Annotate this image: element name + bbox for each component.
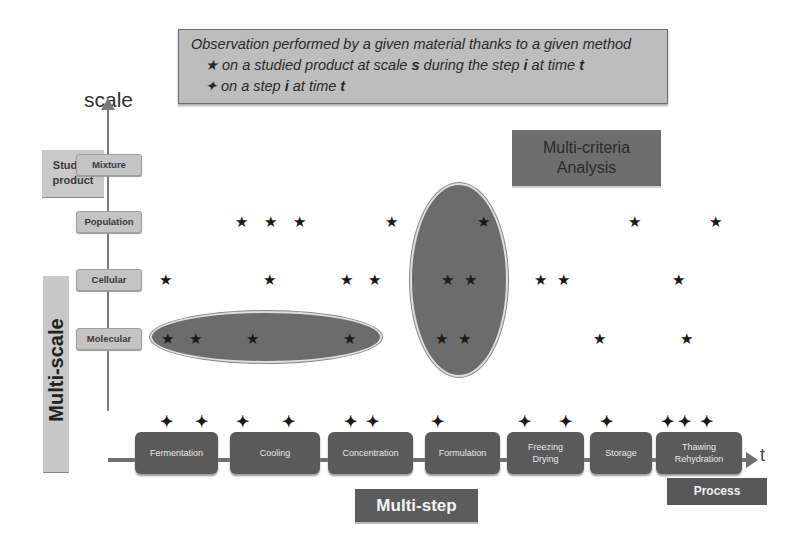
star-icon: ★ (439, 272, 455, 287)
plus-icon: ✦ (676, 414, 692, 430)
legend-text: on a studied product at scale (222, 57, 411, 73)
star-icon: ★ (670, 272, 686, 287)
scale-mixture: Mixture (76, 154, 142, 176)
time-axis-label: t (760, 445, 765, 466)
legend-text: on a step (221, 78, 285, 94)
plus-icon: ✦ (698, 414, 714, 430)
legend-var: t (340, 78, 345, 94)
scale-cellular: Cellular (76, 269, 142, 291)
star-icon: ★ (338, 272, 354, 287)
star-icon: ★ (366, 272, 382, 287)
legend-box: Observation performed by a given materia… (178, 29, 668, 104)
multi-criteria-ellipse (410, 183, 508, 377)
legend-var: t (579, 57, 584, 73)
legend-title: Observation performed by a given materia… (191, 34, 667, 55)
star-icon: ★ (205, 57, 218, 73)
plus-icon: ✦ (193, 414, 209, 430)
star-icon: ★ (626, 214, 642, 229)
legend-star-row: ★ on a studied product at scale s during… (191, 55, 667, 76)
star-icon: ★ (233, 214, 249, 229)
y-axis (107, 104, 109, 411)
star-icon: ★ (341, 331, 357, 346)
star-icon: ★ (187, 331, 203, 346)
time-axis-arrow-icon (746, 452, 758, 468)
star-icon: ★ (159, 331, 175, 346)
process-label: Process (667, 478, 767, 505)
star-icon: ★ (555, 272, 571, 287)
mca-line-1: Multi-criteria (512, 138, 661, 158)
multi-criteria-box: Multi-criteria Analysis (512, 130, 661, 188)
star-icon: ★ (678, 331, 694, 346)
scale-population: Population (76, 211, 142, 233)
legend-text: at time (528, 57, 580, 73)
mca-line-2: Analysis (512, 158, 661, 178)
legend-text: during the step (420, 57, 524, 73)
star-icon: ★ (433, 331, 449, 346)
star-icon: ★ (291, 214, 307, 229)
plus-icon: ✦ (342, 414, 358, 430)
star-icon: ★ (383, 214, 399, 229)
y-axis-arrow-icon (101, 98, 115, 110)
plus-icon: ✦ (557, 414, 573, 430)
plus-icon: ✦ (280, 414, 296, 430)
star-icon: ★ (591, 331, 607, 346)
legend-plus-row: ✦ on a step i at time t (191, 76, 667, 97)
step-concentration: Concentration (328, 432, 413, 474)
multistep-label: Multi-step (355, 489, 478, 524)
star-icon: ★ (707, 214, 723, 229)
plus-icon: ✦ (205, 78, 217, 94)
step-storage: Storage (590, 432, 652, 474)
scale-molecular: Molecular (76, 328, 142, 350)
plus-icon: ✦ (516, 414, 532, 430)
star-icon: ★ (532, 272, 548, 287)
star-icon: ★ (244, 331, 260, 346)
step-thawing: Thawing Rehydration (656, 432, 742, 474)
star-icon: ★ (262, 214, 278, 229)
legend-var: s (411, 57, 419, 73)
multiscale-label: Multi-scale (43, 274, 69, 466)
step-freezing: Freezing Drying (507, 432, 584, 474)
plus-icon: ✦ (659, 414, 675, 430)
step-formulation: Formulation (425, 432, 500, 474)
plus-icon: ✦ (429, 414, 445, 430)
star-icon: ★ (261, 272, 277, 287)
star-icon: ★ (475, 214, 491, 229)
plus-icon: ✦ (598, 414, 614, 430)
star-icon: ★ (462, 272, 478, 287)
step-cooling: Cooling (230, 432, 320, 474)
plus-icon: ✦ (158, 414, 174, 430)
star-icon: ★ (157, 272, 173, 287)
plus-icon: ✦ (364, 414, 380, 430)
step-fermentation: Fermentation (135, 432, 218, 474)
star-icon: ★ (456, 331, 472, 346)
legend-text: at time (289, 78, 341, 94)
plus-icon: ✦ (234, 414, 250, 430)
